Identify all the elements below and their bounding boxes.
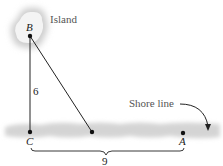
point-shore (90, 130, 94, 134)
label-6: 6 (33, 85, 39, 97)
segment-b-to-shore (30, 36, 92, 132)
label-a: A (178, 135, 186, 147)
island-shore-diagram: B Island 6 C A 9 Shore line (0, 0, 223, 166)
label-9: 9 (102, 155, 108, 166)
brace-9 (31, 148, 184, 155)
label-c: C (26, 135, 34, 147)
label-island: Island (50, 13, 77, 25)
point-b (28, 34, 32, 38)
point-c (28, 130, 32, 134)
shore-band (5, 123, 220, 139)
label-b: B (26, 21, 33, 33)
label-shore-line: Shore line (129, 97, 174, 109)
